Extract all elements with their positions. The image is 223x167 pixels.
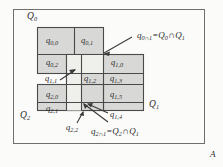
cell-label-q2-1: q2,1 [46,104,58,113]
set-label-q2: Q2 [20,111,30,121]
cell-label-q1-1: q1,1 [45,74,57,83]
cell-label-q1-2: q1,2 [84,74,96,83]
cell-label-q0-2: q0,2 [46,58,58,67]
figure-canvas: Q0 Q1 Q2 q0,0 q0,1 q0,2 q1,0 q1,1 q1,2 q… [0,0,223,167]
cell-label-q0-1: q0,1 [81,36,93,45]
figure-corner-label: A [210,150,216,159]
overlap-q2-q1 [67,85,82,111]
strip-light-middle [67,74,82,85]
cell-label-q1-4: q1,4 [110,110,122,119]
leader-q0-cap-q1 [103,37,132,56]
annotation-q0-cap-q1: q0∩1=Q0∩Q1 [137,31,185,40]
cell-label-q1-5: q1,5 [110,90,122,99]
cell-label-q0-0: q0,0 [46,36,58,45]
set-label-q0: Q0 [27,12,37,22]
leader-q22 [77,111,84,123]
cell-label-q2-2: q2,2 [66,123,78,132]
annotation-q2-cap-q1: q2∩1=Q2∩Q1 [91,127,139,136]
diagram-vector [0,0,223,167]
cell-label-q2-0: q2,0 [46,90,58,99]
cell-label-q1-0: q1,0 [111,58,123,67]
set-label-q1: Q1 [149,100,159,110]
cell-label-q1-3: q1,3 [110,74,122,83]
